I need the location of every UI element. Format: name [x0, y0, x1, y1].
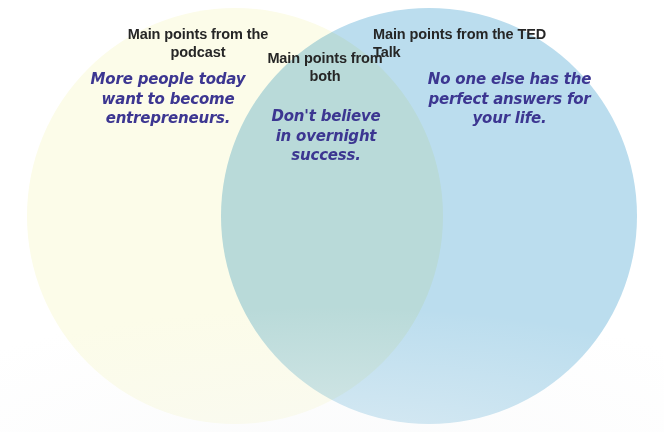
- venn-heading-both: Main points from both: [260, 50, 390, 85]
- venn-note-both: Don't believe in overnight success.: [263, 107, 389, 166]
- venn-note-podcast: More people today want to become entrepr…: [78, 70, 258, 129]
- venn-diagram-canvas: Main points from the podcast More people…: [0, 0, 664, 432]
- venn-note-ted-talk: No one else has the perfect answers for …: [412, 70, 607, 129]
- venn-heading-ted-talk: Main points from the TED Talk: [373, 26, 563, 61]
